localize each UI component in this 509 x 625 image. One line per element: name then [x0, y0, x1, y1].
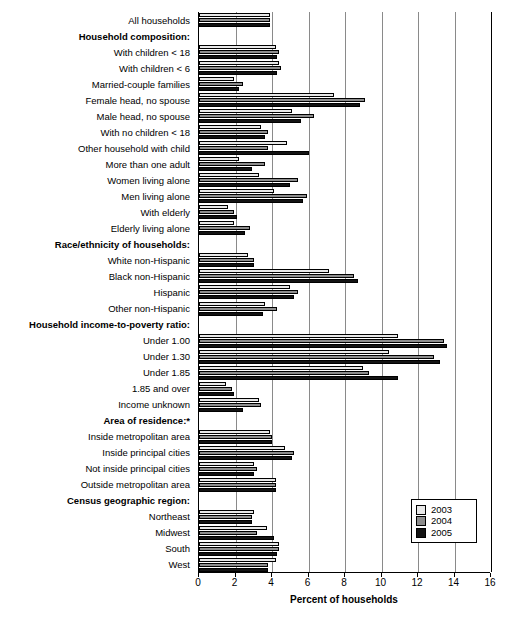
x-tick-label-6: 6: [293, 577, 323, 588]
bar-group-row: [199, 557, 490, 573]
bar-group-row: [199, 44, 490, 60]
x-axis-title: Percent of households: [198, 594, 490, 605]
bar-group-row: [199, 156, 490, 172]
bar-group-row: [199, 477, 490, 493]
plot-area: [198, 12, 490, 573]
bar-2005: [199, 440, 272, 444]
bar-2004: [199, 387, 232, 391]
bar-2004: [199, 66, 281, 70]
bar-2003: [199, 125, 261, 129]
bar-2004: [199, 130, 268, 134]
bar-2003: [199, 173, 259, 177]
category-label: Male head, no spouse: [97, 111, 190, 122]
x-tick-label-2: 2: [220, 577, 250, 588]
bar-2003: [199, 221, 234, 225]
bar-2004: [199, 371, 369, 375]
bar-2003: [199, 285, 290, 289]
bar-2005: [199, 199, 303, 203]
legend-item-2005: 2005: [416, 528, 472, 538]
bar-2004: [199, 274, 354, 278]
bar-group-row: [199, 429, 490, 445]
bar-2005: [199, 87, 239, 91]
category-label: Income unknown: [118, 399, 190, 410]
category-label-column: All householdsHousehold composition:With…: [0, 12, 194, 573]
bar-chart: All householdsHousehold composition:With…: [0, 0, 509, 625]
bar-2004: [199, 355, 434, 359]
bar-2004: [199, 82, 243, 86]
category-label: Under 1.85: [143, 367, 190, 378]
bar-2003: [199, 542, 279, 546]
x-tick-label-4: 4: [256, 577, 286, 588]
section-header-label: Household income-to-poverty ratio:: [29, 319, 190, 330]
section-header-row: [199, 317, 490, 333]
bar-2003: [199, 430, 270, 434]
bar-2005: [199, 167, 252, 171]
bar-2004: [199, 435, 272, 439]
bar-group-row: [199, 220, 490, 236]
bar-group-row: [199, 284, 490, 300]
bar-2005: [199, 119, 301, 123]
bar-group-row: [199, 252, 490, 268]
bar-group-row: [199, 172, 490, 188]
bar-group-row: [199, 92, 490, 108]
legend-swatch-2004: [416, 516, 426, 526]
bar-2005: [199, 392, 234, 396]
bar-2005: [199, 103, 360, 107]
bar-group-row: [199, 333, 490, 349]
bar-group-row: [199, 349, 490, 365]
category-label: Under 1.00: [143, 335, 190, 346]
bar-2003: [199, 253, 248, 257]
legend-swatch-2005: [416, 528, 426, 538]
bar-2005: [199, 23, 270, 27]
bar-2004: [199, 50, 279, 54]
category-label: Elderly living alone: [111, 223, 190, 234]
category-label: South: [165, 543, 190, 554]
bar-2005: [199, 55, 277, 59]
bar-2004: [199, 563, 268, 567]
bar-group-row: [199, 140, 490, 156]
x-tick-label-0: 0: [183, 577, 213, 588]
bar-group-row: [199, 461, 490, 477]
legend-item-2004: 2004: [416, 516, 472, 526]
category-label: Inside principal cities: [102, 447, 190, 458]
bar-group-row: [199, 365, 490, 381]
section-header-label: Area of residence:*: [103, 415, 190, 426]
bar-2005: [199, 312, 263, 316]
bar-rows: [199, 12, 490, 572]
bar-2005: [199, 488, 276, 492]
category-label: With children < 18: [114, 47, 190, 58]
category-label: White non-Hispanic: [108, 255, 190, 266]
bar-2004: [199, 178, 298, 182]
bar-2005: [199, 536, 274, 540]
bar-2004: [199, 194, 307, 198]
category-label: Outside metropolitan area: [81, 479, 190, 490]
category-label: With elderly: [140, 207, 190, 218]
section-header-label: Census geographic region:: [67, 495, 190, 506]
bar-2003: [199, 269, 329, 273]
bar-2005: [199, 568, 268, 572]
x-tick-label-10: 10: [366, 577, 396, 588]
legend: 200320042005: [411, 499, 477, 543]
bar-2005: [199, 231, 245, 235]
bar-2005: [199, 71, 277, 75]
bar-2004: [199, 210, 234, 214]
bar-group-row: [199, 445, 490, 461]
bar-2005: [199, 472, 254, 476]
bar-group-row: [199, 268, 490, 284]
bar-2003: [199, 45, 276, 49]
bar-2003: [199, 366, 363, 370]
bar-2004: [199, 307, 277, 311]
x-tick-label-16: 16: [475, 577, 505, 588]
bar-group-row: [199, 60, 490, 76]
category-label: With children < 6: [119, 63, 190, 74]
bar-group-row: [199, 204, 490, 220]
bar-2004: [199, 531, 257, 535]
category-label: Midwest: [155, 527, 190, 538]
bar-2005: [199, 183, 290, 187]
bar-2004: [199, 18, 270, 22]
bar-2005: [199, 376, 398, 380]
bar-group-row: [199, 76, 490, 92]
x-tick-label-14: 14: [439, 577, 469, 588]
bar-group-row: [199, 301, 490, 317]
bar-2004: [199, 290, 298, 294]
